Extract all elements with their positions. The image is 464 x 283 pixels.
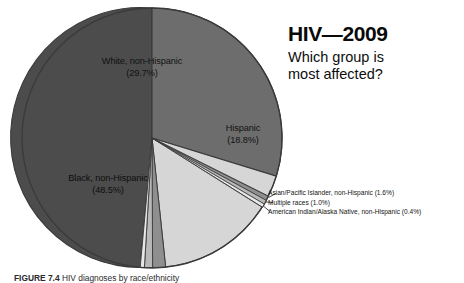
chart-subtitle-line-1: Which group is bbox=[288, 49, 460, 66]
callout-labels: Asian/Pacific Islander, non-Hispanic (1.… bbox=[268, 188, 464, 217]
figure-caption-label: FIGURE 7.4 bbox=[14, 273, 60, 283]
slice-label-hispanic-name: Hispanic bbox=[200, 123, 286, 135]
slice-label-white: White, non-Hispanic (29.7%) bbox=[72, 56, 212, 79]
slice-black-non-hispanic bbox=[11, 8, 152, 268]
slice-label-black-value: (48.5%) bbox=[38, 185, 178, 197]
callout-american-indian-alaska-native: American Indian/Alaska Native, non-Hispa… bbox=[268, 207, 464, 217]
title-block: HIV—2009 Which group is most affected? bbox=[288, 22, 460, 83]
slice-label-hispanic: Hispanic (18.8%) bbox=[200, 123, 286, 146]
slice-label-white-value: (29.7%) bbox=[72, 68, 212, 80]
figure-caption-text: HIV diagnoses by race/ethnicity bbox=[60, 273, 180, 283]
slice-label-black-name: Black, non-Hispanic bbox=[38, 173, 178, 185]
callout-multiple-races: Multiple races (1.0%) bbox=[268, 198, 464, 208]
chart-subtitle-line-2: most affected? bbox=[288, 66, 460, 83]
chart-subtitle: Which group is most affected? bbox=[288, 49, 460, 83]
chart-title: HIV—2009 bbox=[288, 22, 460, 46]
slice-label-hispanic-value: (18.8%) bbox=[200, 135, 286, 147]
slice-label-white-name: White, non-Hispanic bbox=[72, 56, 212, 68]
figure-caption: FIGURE 7.4 HIV diagnoses by race/ethnici… bbox=[14, 273, 454, 283]
slice-label-black: Black, non-Hispanic (48.5%) bbox=[38, 173, 178, 196]
callout-asian-pacific-islander: Asian/Pacific Islander, non-Hispanic (1.… bbox=[268, 188, 464, 198]
